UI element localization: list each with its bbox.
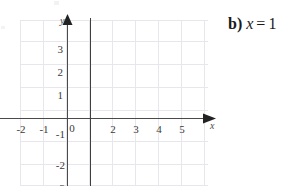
answer-variable: x (246, 15, 253, 32)
x-tick-label: 4 (156, 124, 162, 135)
y-tick-label: 3 (58, 44, 64, 55)
x-tick-label: -2 (16, 124, 25, 135)
y-axis-label: y (60, 16, 64, 26)
x-axis-label: x (210, 121, 214, 131)
x-tick-label: 2 (110, 124, 116, 135)
coordinate-plane: y x -2 -1 0 2 3 4 5 3 2 1 -1 -2 -3 (20, 20, 208, 186)
x-tick-label: 3 (133, 124, 139, 135)
x-tick-label: -1 (39, 124, 48, 135)
answer-equals-sign: = (256, 15, 265, 32)
x-tick-label: 5 (179, 124, 185, 135)
answer-item-label: b) (228, 15, 242, 32)
answer-value: 1 (268, 15, 276, 32)
y-tick-label: -1 (56, 129, 65, 140)
scan-artifact-left (1, 26, 5, 29)
scan-artifact-top (54, 1, 59, 5)
y-tick-label: -2 (56, 160, 65, 171)
answer-text: b)x=1 (228, 16, 276, 32)
x-tick-label: 0 (69, 123, 75, 134)
graph-figure: y x -2 -1 0 2 3 4 5 3 2 1 -1 -2 -3 b)x=1 (0, 0, 303, 186)
y-tick-label: -3 (56, 183, 65, 187)
y-tick-label: 1 (58, 90, 64, 101)
y-tick-label: 2 (58, 67, 64, 78)
axes-and-plot (20, 20, 208, 186)
